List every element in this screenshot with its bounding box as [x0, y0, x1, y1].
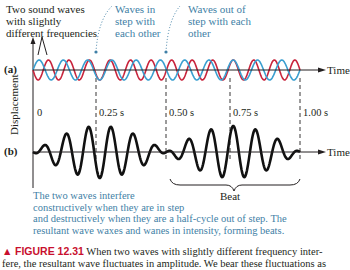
out-of-step-line-2: step with each: [188, 15, 251, 27]
two-waves-line-2: with slightly: [6, 15, 97, 27]
explanation-line-2: constructively when they are in step: [33, 202, 287, 214]
explanation-line-4: resultant wave waxes and wanes in intens…: [33, 225, 287, 237]
out-of-step-leader: [166, 6, 180, 52]
explanation-text: The two waves interfere constructively w…: [33, 190, 287, 236]
caption-text-1: When two waves with slightly different f…: [86, 246, 322, 257]
in-step-line-1: Waves in: [115, 3, 161, 15]
in-step-label: Waves in step with each other: [115, 3, 161, 39]
two-waves-line-3: different frequencies: [6, 27, 97, 39]
time-markers: [96, 78, 300, 160]
time-label-a: Time: [327, 64, 350, 76]
two-waves-label: Two sound waves with slightly different …: [6, 3, 97, 39]
explanation-line-1: The two waves interfere: [33, 190, 287, 202]
out-of-step-line-1: Waves out of: [188, 3, 251, 15]
panel-b-label: (b): [4, 145, 17, 157]
tick-1-00: 1.00 s: [303, 107, 328, 119]
two-waves-line-1: Two sound waves: [6, 3, 97, 15]
explanation-line-3: and destructively when they are a half-c…: [33, 213, 287, 225]
in-step-line-3: each other: [115, 27, 161, 39]
panel-a-label: (a): [4, 63, 17, 75]
time-arrow-b-icon: [318, 150, 326, 155]
caption-line-1: ▲ FIGURE 12.31 When two waves with sligh…: [2, 245, 326, 258]
figure-caption: ▲ FIGURE 12.31 When two waves with sligh…: [2, 245, 326, 270]
tick-0-75: 0.75 s: [233, 107, 258, 119]
caption-line-2: fere, the resultant wave fluctuates in a…: [2, 258, 326, 270]
time-arrow-a-icon: [318, 68, 326, 73]
y-axis-label: Displacement: [8, 75, 20, 135]
tick-0: 0: [37, 107, 42, 119]
in-step-line-2: step with: [115, 15, 161, 27]
tick-0-50: 0.50 s: [169, 107, 194, 119]
figure-number: FIGURE 12.31: [15, 245, 84, 257]
in-step-leader: [96, 6, 112, 52]
triangle-icon: ▲: [2, 246, 12, 257]
out-of-step-label: Waves out of step with each other: [188, 3, 251, 39]
out-of-step-line-3: other: [188, 27, 251, 39]
tick-0-25: 0.25 s: [99, 107, 124, 119]
two-waves-pointer: [38, 37, 47, 55]
time-label-b: Time: [327, 146, 350, 158]
